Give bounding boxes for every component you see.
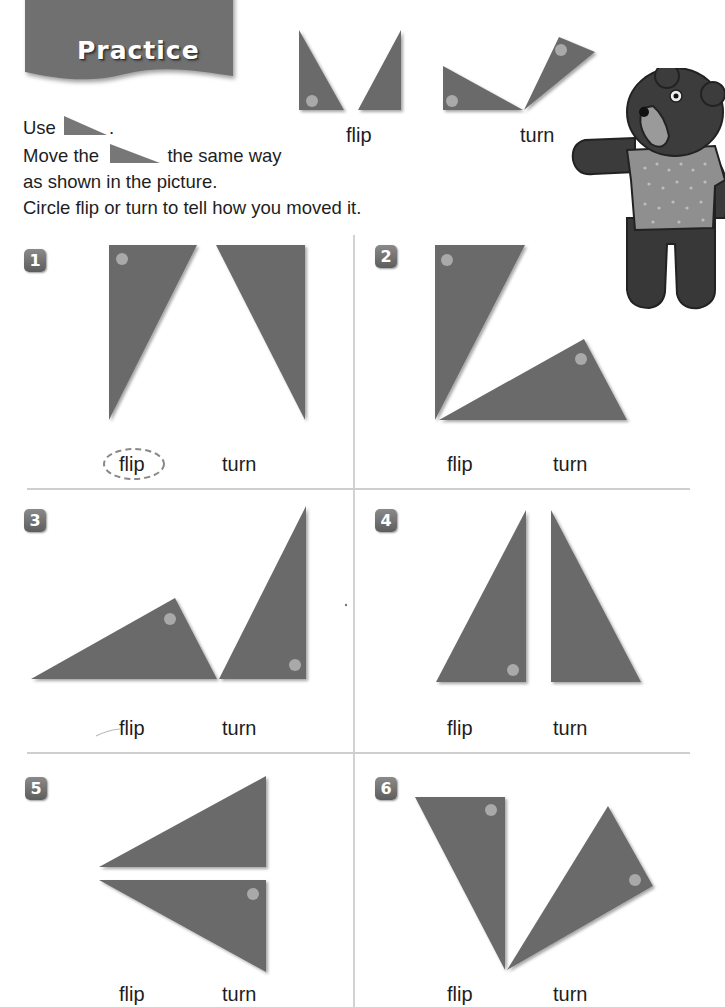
problem-6-option-flip[interactable]: flip [447, 983, 473, 1006]
example-flip-label: flip [346, 124, 372, 147]
example-flip-triangle-b [358, 30, 401, 110]
p4-triangle-a [436, 510, 526, 682]
p5-triangle-b [99, 880, 266, 972]
dot-marker [507, 664, 519, 676]
p3-triangle-b [219, 506, 306, 679]
problem-6-option-turn[interactable]: turn [553, 983, 587, 1006]
p1-triangle-a [109, 245, 197, 420]
dot-marker [441, 254, 453, 266]
example-flip-triangle-a [299, 30, 344, 110]
dot-marker [485, 804, 497, 816]
dot-marker [289, 659, 301, 671]
problem-3-option-flip[interactable]: flip [119, 717, 145, 740]
problem-number-badge: 2 [375, 245, 397, 268]
problem-5-option-turn[interactable]: turn [222, 983, 256, 1006]
dot-marker [306, 95, 318, 107]
problem-number-badge: 1 [24, 249, 46, 272]
problem-number-badge: 5 [25, 777, 47, 800]
bear-illustration [565, 68, 725, 318]
problem-2-option-turn[interactable]: turn [553, 453, 587, 476]
dot-marker [575, 353, 587, 365]
problem-4-option-flip[interactable]: flip [447, 717, 473, 740]
problem-3-option-turn[interactable]: turn [222, 717, 256, 740]
p4-triangle-b [551, 510, 641, 682]
dot-marker [446, 95, 458, 107]
problem-1-option-turn[interactable]: turn [222, 453, 256, 476]
problem-number-badge: 4 [375, 509, 397, 532]
dot-marker [629, 874, 641, 886]
vertical-divider [353, 235, 355, 1007]
p6-triangle-b [507, 806, 653, 970]
problem-1-option-flip[interactable]: flip [119, 453, 145, 476]
problem-number-badge: 6 [375, 777, 397, 800]
p6-triangle-a [415, 797, 505, 970]
horizontal-divider [27, 488, 690, 490]
problem-5-option-flip[interactable]: flip [119, 983, 145, 1006]
dot-marker [164, 613, 176, 625]
dot-marker [116, 253, 128, 265]
p5-triangle-a [99, 776, 266, 867]
dot-marker [247, 888, 259, 900]
problem-number-badge: 3 [24, 509, 46, 532]
horizontal-divider [27, 752, 690, 754]
pencil-mark [96, 729, 120, 736]
p3-triangle-a [31, 598, 217, 679]
problem-4-option-turn[interactable]: turn [553, 717, 587, 740]
example-turn-label: turn [520, 124, 554, 147]
problem-2-option-flip[interactable]: flip [447, 453, 473, 476]
dot-marker [555, 44, 567, 56]
p1-triangle-b [216, 245, 305, 420]
